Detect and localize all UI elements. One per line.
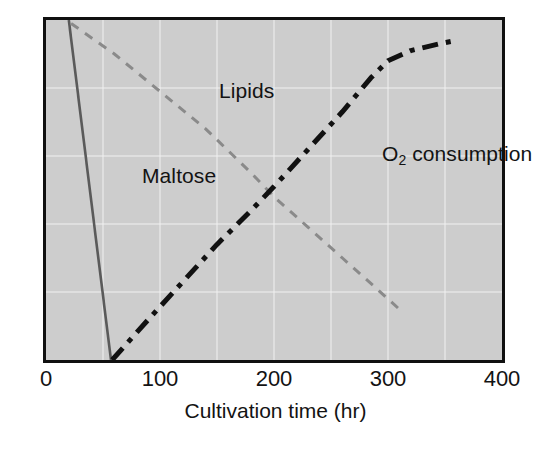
series-line-maltose (69, 20, 111, 360)
o2-label-o: O (382, 142, 398, 165)
series-label-lipids: Lipids (219, 80, 274, 101)
series-paths (69, 20, 457, 360)
x-tick-label-300: 300 (370, 368, 407, 390)
series-line-lipids (71, 23, 403, 312)
x-tick-label-100: 100 (142, 368, 179, 390)
x-tick-label-0: 0 (40, 368, 52, 390)
plot-svg (46, 20, 502, 360)
x-tick-label-200: 200 (256, 368, 293, 390)
x-tick-label-400: 400 (484, 368, 521, 390)
series-label-maltose: Maltose (142, 165, 216, 186)
series-label-o2-consumption: O2 consumption (382, 143, 532, 167)
o2-label-consumption: consumption (406, 142, 532, 165)
x-axis-tick-labels: 0100200300400 (0, 368, 543, 396)
plot-area: Lipids Maltose O2 consumption (43, 17, 505, 363)
figure-container: Lipids Maltose O2 consumption 0100200300… (0, 0, 543, 453)
x-axis-title: Cultivation time (hr) (0, 400, 543, 421)
